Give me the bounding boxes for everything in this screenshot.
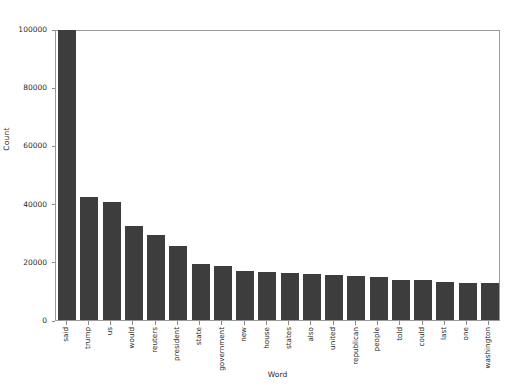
x-axis-tick-label: republican <box>351 327 359 365</box>
tick-mark <box>422 321 423 325</box>
bar <box>347 276 365 320</box>
y-axis-tick-label: 0 <box>42 316 47 326</box>
tick-mark <box>310 321 311 325</box>
tick-mark <box>488 321 489 325</box>
tick-mark <box>399 321 400 325</box>
plot-area <box>55 30 500 321</box>
x-axis-tick-label: could <box>418 327 426 346</box>
bar <box>103 202 121 320</box>
y-axis-tick: 0 <box>0 316 55 326</box>
x-axis-tick-label: said <box>62 327 70 342</box>
tick-mark <box>333 321 334 325</box>
y-axis-tick-label: 60000 <box>23 141 47 151</box>
bar <box>303 274 321 320</box>
x-axis-tick-label: united <box>329 327 337 350</box>
x-axis-tick-label: house <box>262 327 270 349</box>
x-axis-tick-label: state <box>196 327 204 345</box>
bar <box>214 266 232 320</box>
x-axis-tick-label: told <box>396 327 404 341</box>
y-axis-tick-label: 20000 <box>23 258 47 268</box>
bar <box>258 272 276 320</box>
tick-mark <box>244 321 245 325</box>
bar <box>392 280 410 320</box>
bar <box>169 246 187 320</box>
tick-mark <box>177 321 178 325</box>
tick-mark <box>199 321 200 325</box>
tick-mark <box>132 321 133 325</box>
tick-mark <box>88 321 89 325</box>
x-axis-tick-label: trump <box>84 327 92 349</box>
x-axis-tick-label: reuters <box>151 327 159 353</box>
tick-mark <box>66 321 67 325</box>
x-axis-tick-label: people <box>374 327 382 351</box>
tick-mark <box>355 321 356 325</box>
bar <box>414 280 432 320</box>
bar-chart-figure: Count 020000400006000080000100000 saidtr… <box>0 0 520 391</box>
tick-mark <box>266 321 267 325</box>
bar <box>436 282 454 320</box>
bar <box>147 235 165 320</box>
tick-mark <box>377 321 378 325</box>
bar <box>281 273 299 320</box>
tick-mark <box>288 321 289 325</box>
bar <box>80 197 98 320</box>
y-axis-tick-label: 40000 <box>23 200 47 210</box>
bar <box>325 275 343 320</box>
y-axis-label: Count <box>2 104 11 174</box>
x-axis-tick-label: states <box>285 327 293 349</box>
x-axis-tick-label: one <box>463 327 471 340</box>
tick-mark <box>155 321 156 325</box>
y-axis-tick: 20000 <box>0 258 55 268</box>
bar <box>459 283 477 320</box>
x-axis-tick-label: new <box>240 327 248 342</box>
x-axis-tick-label: would <box>129 327 137 348</box>
x-axis-tick-label: washington <box>485 327 493 368</box>
bar <box>192 264 210 320</box>
y-axis-tick: 60000 <box>0 141 55 151</box>
tick-mark <box>466 321 467 325</box>
x-axis-tick-label: also <box>307 327 315 342</box>
tick-mark <box>444 321 445 325</box>
bar <box>58 30 76 320</box>
y-axis-tick: 40000 <box>0 200 55 210</box>
x-axis-tick-label: us <box>107 327 115 335</box>
bar <box>481 283 499 320</box>
bar <box>370 277 388 320</box>
x-axis-label: Word <box>55 370 500 379</box>
y-axis-tick: 100000 <box>0 25 55 35</box>
bar <box>125 226 143 320</box>
tick-mark <box>221 321 222 325</box>
x-axis-tick-label: government <box>218 327 226 371</box>
y-axis-tick-label: 80000 <box>23 83 47 93</box>
x-axis-tick-label: president <box>173 327 181 361</box>
bar <box>236 271 254 320</box>
y-axis-tick-label: 100000 <box>18 25 47 35</box>
y-axis-tick: 80000 <box>0 83 55 93</box>
x-axis-tick-label: last <box>440 327 448 340</box>
bar-series <box>56 31 499 320</box>
tick-mark <box>110 321 111 325</box>
